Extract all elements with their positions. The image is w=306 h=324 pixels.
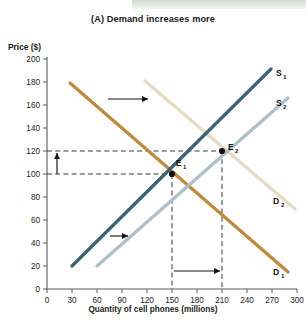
chart-page: (A) Demand increases more Price ($) — [0, 0, 306, 324]
x-tick-60: 60 — [92, 296, 102, 305]
x-tick-210: 210 — [215, 296, 229, 305]
guide-lines — [47, 151, 222, 289]
svg-text:E: E — [176, 159, 182, 168]
y-tick-180: 180 — [26, 78, 40, 87]
svg-text:D: D — [273, 267, 279, 277]
x-tick-150: 150 — [165, 296, 179, 305]
x-tick-0: 0 — [45, 296, 50, 305]
y-tick-80: 80 — [31, 193, 41, 202]
svg-text:2: 2 — [283, 103, 287, 110]
y-tick-0: 0 — [35, 285, 40, 294]
x-tick-270: 270 — [265, 296, 279, 305]
x-tick-180: 180 — [190, 296, 204, 305]
curve-label-s1: S 1 — [276, 68, 287, 80]
svg-text:2: 2 — [281, 201, 285, 208]
x-tick-240: 240 — [240, 296, 254, 305]
chart-plot: 0 20 40 60 80 100 120 140 160 180 200 0 — [0, 0, 306, 324]
svg-text:1: 1 — [183, 164, 187, 170]
equilibrium-point-e2 — [219, 148, 225, 154]
x-tick-120: 120 — [140, 296, 154, 305]
x-tick-30: 30 — [67, 296, 77, 305]
x-tick-90: 90 — [117, 296, 127, 305]
y-tick-160: 160 — [26, 101, 40, 110]
svg-text:1: 1 — [281, 272, 285, 279]
curve-supply-1 — [72, 69, 271, 266]
svg-text:1: 1 — [283, 73, 287, 80]
svg-text:D: D — [273, 196, 279, 206]
y-tick-60: 60 — [31, 216, 41, 225]
y-tick-140: 140 — [26, 124, 40, 133]
x-axis-ticks: 0 30 60 90 120 150 180 210 240 270 300 — [45, 289, 305, 305]
svg-text:2: 2 — [235, 148, 239, 154]
curve-demand-2 — [145, 81, 295, 209]
svg-text:E: E — [228, 143, 234, 152]
equilibrium-label-e1: E 1 — [176, 159, 187, 170]
x-tick-300: 300 — [290, 296, 304, 305]
svg-text:S: S — [276, 98, 282, 108]
y-tick-120: 120 — [26, 147, 40, 156]
y-tick-40: 40 — [31, 239, 41, 248]
x-axis-title: Quantity of cell phones (millions) — [0, 305, 306, 314]
svg-text:S: S — [276, 68, 282, 78]
y-tick-200: 200 — [26, 55, 40, 64]
equilibrium-point-e1 — [169, 171, 175, 177]
y-tick-100: 100 — [26, 170, 40, 179]
y-tick-20: 20 — [31, 262, 41, 271]
y-axis-ticks: 0 20 40 60 80 100 120 140 160 180 200 — [26, 55, 47, 294]
